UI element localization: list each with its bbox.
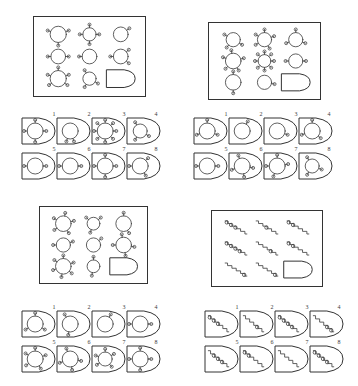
option-number-2: 2 (84, 111, 94, 117)
option-box-3[interactable] (92, 311, 125, 337)
option-frame-7[interactable] (92, 346, 125, 372)
option-box-2[interactable] (229, 118, 262, 144)
option-figure-8-bead-0 (313, 351, 316, 354)
option-number-5: 5 (221, 146, 231, 152)
option-frame-7[interactable] (275, 346, 308, 372)
option-frame-1[interactable] (205, 311, 238, 337)
matrix-cell-5 (256, 242, 278, 255)
option-figure-3-bead-1 (282, 319, 285, 322)
option-box-7[interactable] (92, 153, 125, 179)
option-box-5[interactable] (205, 346, 238, 372)
matrix-missing-cell[interactable] (284, 261, 313, 278)
matrix-cell-9 (284, 261, 313, 278)
puzzle-1-matrix-panel (33, 16, 146, 97)
option-box-4[interactable] (127, 118, 160, 144)
matrix-missing-cell[interactable] (110, 258, 138, 275)
matrix-figure-8-stair (256, 263, 278, 276)
option-box-7[interactable] (92, 346, 125, 372)
matrix-cell-1 (225, 221, 247, 234)
option-figure-3-circle (97, 316, 113, 332)
option-box-8[interactable] (299, 153, 332, 179)
matrix-figure-7-circle (56, 259, 72, 275)
matrix-figure-8-circle (83, 72, 96, 85)
matrix-figure-7-circle (50, 71, 66, 87)
option-box-4[interactable] (299, 118, 332, 144)
option-box-1[interactable] (205, 311, 238, 337)
option-box-6[interactable] (240, 346, 273, 372)
option-frame-3[interactable] (275, 311, 308, 337)
option-frame-6[interactable] (240, 346, 273, 372)
option-box-1[interactable] (194, 118, 227, 144)
option-number-4: 4 (151, 304, 161, 310)
option-figure-5-bead-0 (212, 354, 215, 357)
matrix-cell-8 (83, 69, 100, 89)
matrix-figure-3-circle (289, 33, 303, 47)
option-box-8[interactable] (310, 346, 343, 372)
option-figure-1-bead-2 (216, 322, 219, 325)
puzzle-3-options: 1 2 3 4 5 6 7 8 (20, 305, 163, 375)
option-frame-8[interactable] (310, 346, 343, 372)
puzzle-2-options: 1 2 3 4 5 6 7 8 (192, 112, 339, 182)
option-number-5: 5 (49, 339, 59, 345)
matrix-figure-6-circle (113, 49, 128, 64)
matrix-figure-4-circle (56, 238, 70, 252)
matrix-missing-cell[interactable] (106, 70, 135, 88)
matrix-missing-cell[interactable] (281, 74, 310, 91)
option-box-2[interactable] (240, 311, 273, 337)
option-box-5[interactable] (194, 153, 227, 179)
option-box-4[interactable] (127, 311, 160, 337)
option-figure-1-bead-1 (212, 319, 215, 322)
option-frame-8[interactable] (299, 153, 332, 179)
option-box-3[interactable] (92, 118, 125, 144)
matrix-figure-1-circle (226, 33, 240, 47)
option-frame-2[interactable] (240, 311, 273, 337)
matrix-cell-8 (87, 255, 100, 277)
option-frame-5[interactable] (205, 346, 238, 372)
matrix-cell-7 (52, 254, 76, 279)
matrix-figure-3-circle (113, 27, 128, 42)
option-number-3: 3 (291, 111, 301, 117)
option-number-7: 7 (302, 339, 312, 345)
option-figure-8-bead-1 (317, 354, 320, 357)
option-box-5[interactable] (22, 346, 55, 372)
option-box-8[interactable] (127, 153, 160, 179)
puzzle-3-matrix-panel (39, 206, 148, 284)
option-box-1[interactable] (22, 311, 55, 337)
option-figure-6-circle (62, 351, 78, 367)
option-figure-3-circle (269, 123, 285, 139)
option-number-2: 2 (256, 111, 266, 117)
option-box-5[interactable] (22, 153, 55, 179)
option-box-2[interactable] (57, 311, 90, 337)
option-number-3: 3 (302, 304, 312, 310)
matrix-figure-6-circle (116, 237, 132, 253)
matrix-cell-3 (285, 28, 307, 47)
option-box-4[interactable] (310, 311, 343, 337)
option-number-7: 7 (291, 146, 301, 152)
option-box-7[interactable] (264, 153, 297, 179)
option-frame-4[interactable] (310, 311, 343, 337)
matrix-cell-2 (256, 221, 278, 234)
option-figure-2-circle (62, 316, 78, 332)
option-box-6[interactable] (57, 153, 90, 179)
option-frame-4[interactable] (127, 118, 160, 144)
option-box-6[interactable] (229, 153, 262, 179)
option-number-6: 6 (84, 339, 94, 345)
option-figure-2-bead-0 (255, 325, 258, 328)
option-box-2[interactable] (57, 118, 90, 144)
option-box-3[interactable] (264, 118, 297, 144)
matrix-cell-9 (281, 74, 310, 91)
matrix-cell-4 (52, 238, 75, 252)
option-box-6[interactable] (57, 346, 90, 372)
option-box-8[interactable] (127, 346, 160, 372)
option-box-3[interactable] (275, 311, 308, 337)
option-figure-5-bead-2 (220, 360, 223, 363)
option-box-7[interactable] (275, 346, 308, 372)
option-figure-5-circle (27, 158, 43, 174)
matrix-cell-6 (287, 242, 309, 255)
option-number-1: 1 (49, 111, 59, 117)
matrix-figure-2-circle (257, 33, 271, 47)
puzzle-1-options: 1 2 3 4 5 6 7 8 (20, 112, 163, 182)
option-figure-5-circle (27, 351, 43, 367)
puzzle-4-options: 1 2 3 4 5 6 7 8 (203, 305, 346, 375)
option-box-1[interactable] (22, 118, 55, 144)
